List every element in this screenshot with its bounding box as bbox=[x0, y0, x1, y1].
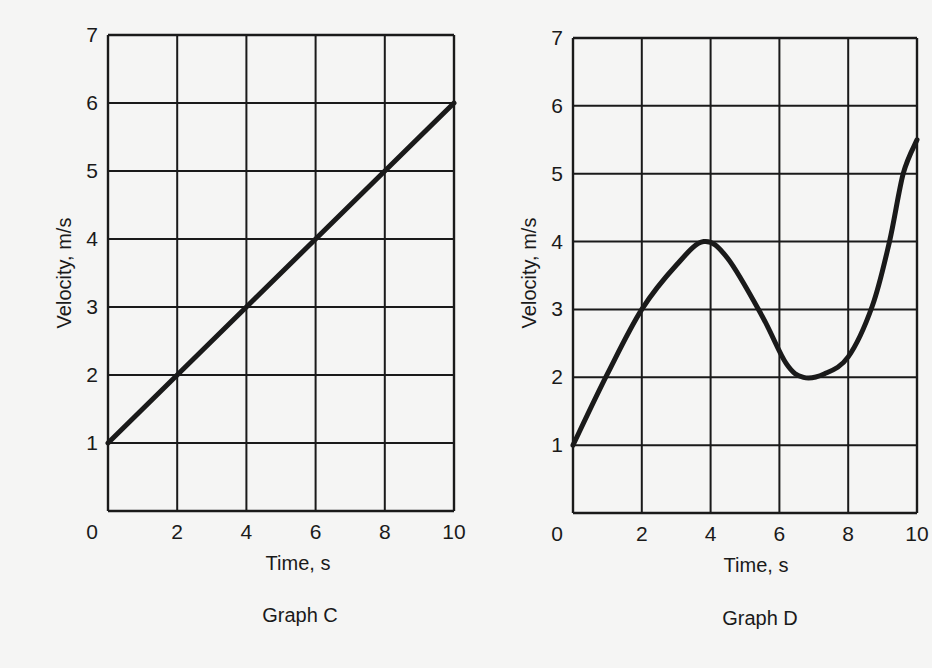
y-tick-label: 2 bbox=[86, 363, 98, 386]
graph-d-velocity-curve bbox=[573, 140, 917, 445]
figure: 1234567 0246810 Velocity, m/s Time, s Gr… bbox=[0, 0, 932, 668]
graph-c: 1234567 0246810 Velocity, m/s Time, s Gr… bbox=[53, 23, 466, 626]
x-tick-label: 2 bbox=[171, 520, 183, 543]
y-tick-label: 5 bbox=[551, 162, 563, 185]
graph-d-y-tick-labels: 1234567 bbox=[551, 26, 563, 456]
graph-c-velocity-line bbox=[108, 103, 454, 443]
graph-d-grid bbox=[573, 38, 917, 513]
x-tick-label: 0 bbox=[86, 520, 98, 543]
graph-d-x-tick-labels: 0246810 bbox=[551, 522, 929, 545]
graph-c-x-tick-labels: 0246810 bbox=[86, 520, 466, 543]
x-tick-label: 6 bbox=[310, 520, 322, 543]
x-tick-label: 0 bbox=[551, 522, 563, 545]
graph-d-y-axis-title: Velocity, m/s bbox=[518, 218, 540, 329]
graph-d-caption: Graph D bbox=[722, 607, 798, 629]
x-tick-label: 10 bbox=[442, 520, 465, 543]
y-tick-label: 6 bbox=[551, 94, 563, 117]
x-tick-label: 10 bbox=[905, 522, 928, 545]
graph-c-y-axis-title: Velocity, m/s bbox=[53, 218, 75, 329]
graph-c-y-tick-labels: 1234567 bbox=[86, 23, 98, 454]
y-tick-label: 5 bbox=[86, 159, 98, 182]
y-tick-label: 4 bbox=[551, 230, 563, 253]
y-tick-label: 7 bbox=[551, 26, 563, 49]
graph-c-x-axis-title: Time, s bbox=[266, 552, 331, 574]
y-tick-label: 3 bbox=[86, 295, 98, 318]
x-tick-label: 8 bbox=[842, 522, 854, 545]
y-tick-label: 4 bbox=[86, 227, 98, 250]
graph-c-caption: Graph C bbox=[262, 604, 338, 626]
x-tick-label: 6 bbox=[774, 522, 786, 545]
x-tick-label: 8 bbox=[379, 520, 391, 543]
graph-d-x-axis-title: Time, s bbox=[724, 554, 789, 576]
y-tick-label: 7 bbox=[86, 23, 98, 46]
y-tick-label: 6 bbox=[86, 91, 98, 114]
x-tick-label: 4 bbox=[241, 520, 253, 543]
x-tick-label: 2 bbox=[636, 522, 648, 545]
y-tick-label: 3 bbox=[551, 297, 563, 320]
y-tick-label: 2 bbox=[551, 365, 563, 388]
y-tick-label: 1 bbox=[86, 431, 98, 454]
x-tick-label: 4 bbox=[705, 522, 717, 545]
y-tick-label: 1 bbox=[551, 433, 563, 456]
graph-d: 1234567 0246810 Velocity, m/s Time, s Gr… bbox=[518, 26, 929, 629]
